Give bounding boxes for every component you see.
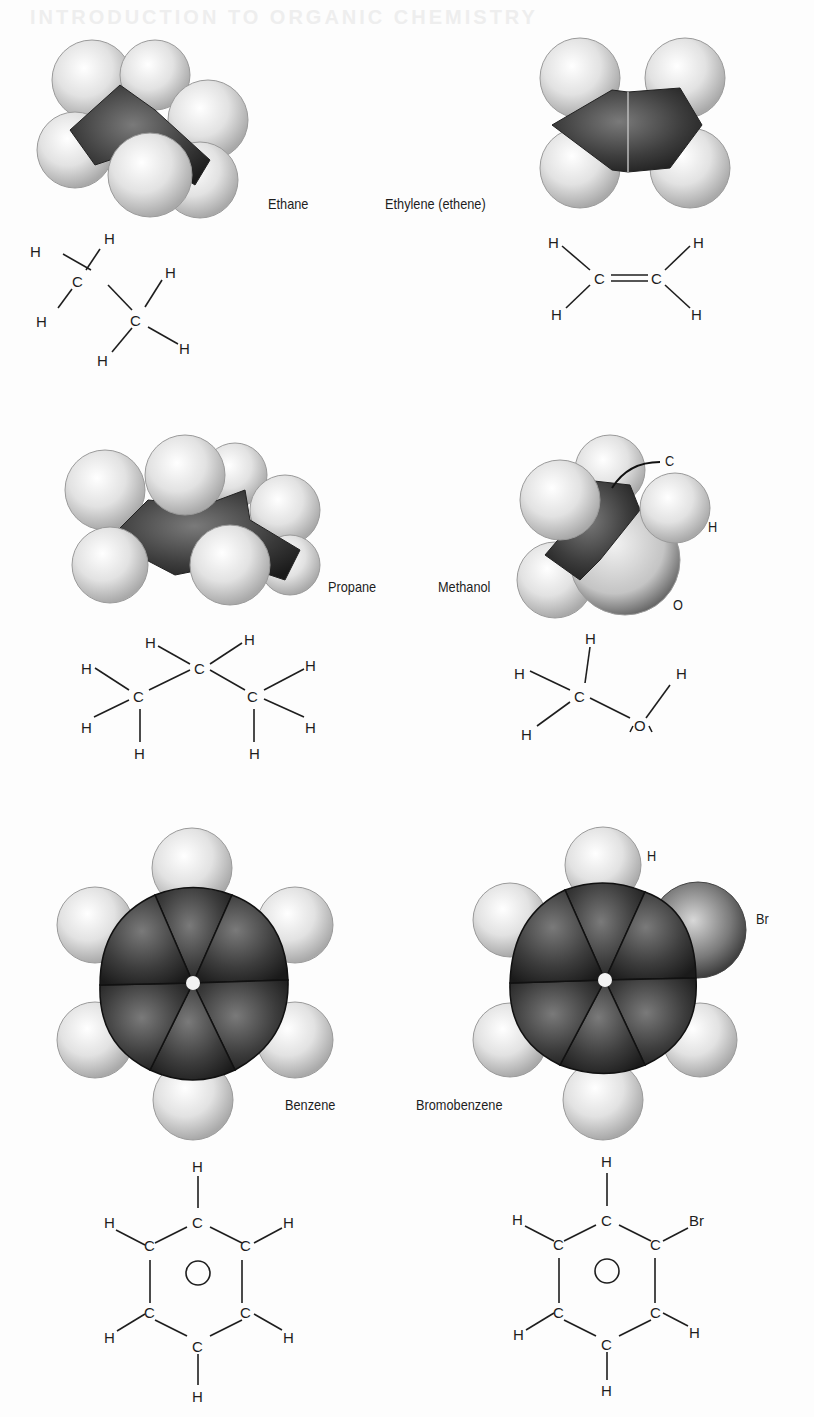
svg-text:C: C [240, 1304, 251, 1321]
svg-text:H: H [551, 306, 562, 323]
svg-text:C: C [240, 1237, 251, 1254]
svg-text:H: H [179, 340, 190, 357]
svg-text:H: H [305, 719, 316, 736]
label-methanol: Methanol [438, 578, 490, 595]
ethylene-model [540, 38, 730, 208]
svg-text:H: H [283, 1329, 294, 1346]
svg-text:C: C [553, 1236, 564, 1253]
svg-text:C: C [130, 312, 141, 329]
svg-text:C: C [650, 1236, 661, 1253]
ethane-model [37, 40, 248, 218]
label-ethylene: Ethylene (ethene) [385, 195, 486, 212]
svg-text:H: H [513, 1326, 524, 1343]
svg-text:H: H [514, 665, 525, 682]
svg-text:H: H [249, 745, 260, 762]
bromobenzene-atoms: H C HBr CC CC HH C H [512, 1153, 704, 1399]
svg-text:Br: Br [689, 1212, 704, 1229]
svg-text:H: H [305, 657, 316, 674]
svg-text:H: H [192, 1158, 203, 1175]
svg-text:H: H [145, 634, 156, 651]
ethylene-structural-formula [562, 246, 690, 308]
svg-text:H: H [81, 719, 92, 736]
svg-text:C: C [192, 1214, 203, 1231]
svg-text:H: H [283, 1214, 294, 1231]
svg-text:H: H [104, 230, 115, 247]
ethane-atoms: HH CH HC HH [30, 230, 190, 369]
svg-text:C: C [594, 270, 605, 287]
svg-text:O: O [634, 717, 646, 734]
svg-text:C: C [601, 1336, 612, 1353]
svg-text:H: H [676, 665, 687, 682]
svg-text:H: H [689, 1324, 700, 1341]
svg-text:H: H [601, 1153, 612, 1170]
bromobenzene-callout-br: Br [756, 910, 769, 927]
label-bromobenzene: Bromobenzene [416, 1096, 502, 1113]
svg-text:C: C [192, 1338, 203, 1355]
svg-text:H: H [585, 630, 596, 647]
svg-text:H: H [192, 1388, 203, 1405]
bromobenzene-model [473, 827, 746, 1140]
methanol-atoms: HH CH OH [514, 630, 687, 743]
svg-text:H: H [548, 234, 559, 251]
svg-text:H: H [30, 243, 41, 260]
svg-text:H: H [97, 352, 108, 369]
svg-text:H: H [691, 306, 702, 323]
methanol-callout-c: C [665, 452, 674, 469]
bromobenzene-callout-h: H [647, 847, 656, 864]
svg-text:C: C [194, 660, 205, 677]
svg-text:H: H [244, 631, 255, 648]
bromobenzene-aromatic-ring-icon [595, 1259, 619, 1283]
svg-text:H: H [521, 726, 532, 743]
benzene-atoms: H C HH CC CC HH C H [104, 1158, 294, 1405]
svg-text:H: H [601, 1382, 612, 1399]
svg-text:C: C [133, 688, 144, 705]
methanol-callout-h: H [708, 518, 717, 535]
label-benzene: Benzene [285, 1096, 335, 1113]
svg-text:C: C [247, 688, 258, 705]
methanol-structural-formula [530, 647, 670, 732]
svg-text:C: C [574, 688, 585, 705]
ethane-structural-formula [58, 249, 178, 352]
svg-text:C: C [72, 273, 83, 290]
svg-text:H: H [512, 1211, 523, 1228]
label-propane: Propane [328, 578, 376, 595]
svg-text:H: H [134, 745, 145, 762]
svg-text:H: H [104, 1214, 115, 1231]
benzene-aromatic-ring-icon [186, 1261, 210, 1285]
propane-atoms: HH C HH CC HH HH [81, 631, 316, 762]
svg-text:C: C [601, 1212, 612, 1229]
propane-model [65, 435, 320, 605]
svg-text:C: C [144, 1304, 155, 1321]
svg-text:C: C [651, 270, 662, 287]
propane-structural-formula [94, 643, 304, 742]
methanol-model [517, 435, 710, 618]
benzene-model [57, 828, 333, 1140]
svg-text:H: H [36, 313, 47, 330]
svg-text:H: H [165, 264, 176, 281]
methanol-callout-o: O [673, 596, 683, 613]
svg-text:C: C [650, 1304, 661, 1321]
svg-text:H: H [104, 1329, 115, 1346]
ethylene-atoms: HH CC HH [548, 234, 704, 323]
svg-text:H: H [693, 234, 704, 251]
molecule-diagrams: HH CH HC HH HH CC HH [0, 0, 814, 1417]
svg-text:C: C [144, 1237, 155, 1254]
svg-text:H: H [81, 660, 92, 677]
svg-text:C: C [553, 1304, 564, 1321]
label-ethane: Ethane [268, 195, 308, 212]
